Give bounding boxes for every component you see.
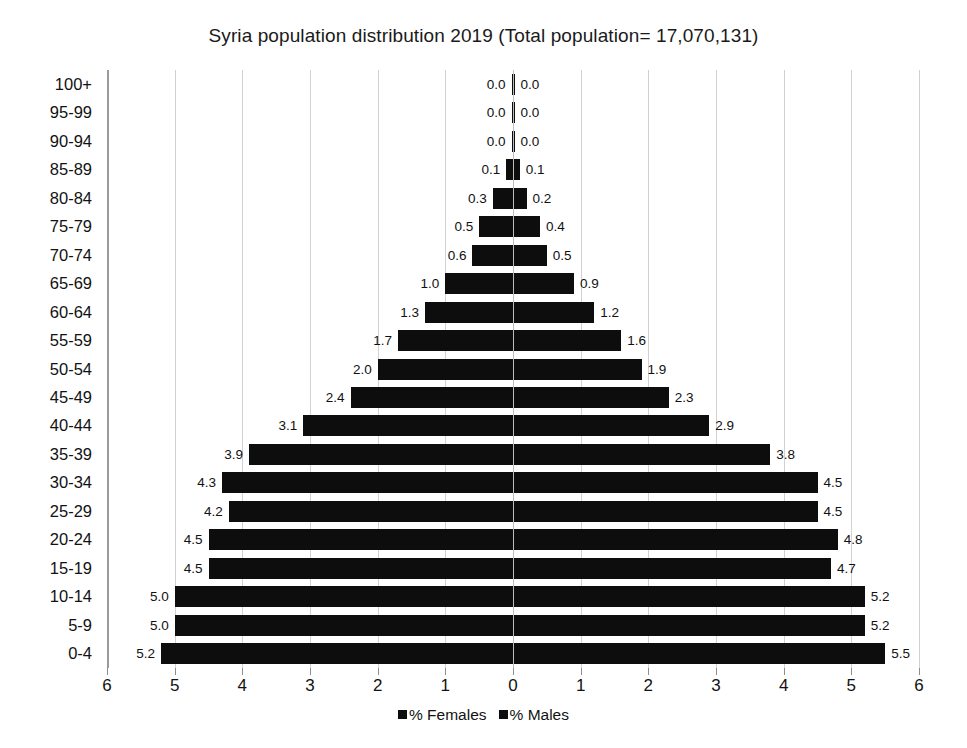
value-label-male: 0.0 [521,132,540,151]
value-label-female: 0.0 [487,103,506,122]
x-axis-tick-label: 3 [696,676,736,696]
bar-female [303,415,513,436]
bar-male [513,558,831,579]
value-label-male: 5.2 [871,587,890,606]
y-axis-tick-label: 45-49 [0,387,92,408]
x-axis-tick-mark [513,668,514,675]
bar-male [513,444,770,465]
bar-male [513,245,547,266]
legend-item[interactable]: % Males [499,706,569,724]
bar-female [506,159,513,180]
y-axis-tick-label: 90-94 [0,131,92,152]
plot-area: 0.00.00.00.00.00.00.10.10.30.20.50.40.60… [107,70,919,668]
value-label-female: 3.9 [224,445,243,464]
gridline-m0 [513,70,514,668]
x-axis-tick-label: 1 [561,676,601,696]
value-label-male: 2.3 [675,388,694,407]
bar-female [351,387,513,408]
value-label-female: 4.3 [197,473,216,492]
bar-male [513,387,669,408]
y-axis-tick-label: 10-14 [0,586,92,607]
gridline-m6 [919,70,920,668]
value-label-male: 5.5 [891,644,910,663]
value-label-female: 4.2 [204,502,223,521]
value-label-female: 0.6 [448,246,467,265]
value-label-female: 5.2 [136,644,155,663]
y-axis-tick-label: 80-84 [0,188,92,209]
x-axis-tick-mark [851,668,852,675]
value-label-female: 4.5 [184,559,203,578]
y-axis-tick-label: 35-39 [0,444,92,465]
x-axis-tick-label: 4 [764,676,804,696]
value-label-female: 2.4 [326,388,345,407]
x-axis-tick-label: 6 [87,676,127,696]
value-label-female: 1.0 [421,274,440,293]
y-axis-tick-label: 40-44 [0,415,92,436]
value-label-female: 0.0 [487,132,506,151]
x-axis-tick-mark [581,668,582,675]
bar-male [513,330,621,351]
bar-female [425,302,513,323]
y-axis-tick-label: 65-69 [0,273,92,294]
bar-female [472,245,513,266]
value-label-male: 3.8 [776,445,795,464]
value-label-male: 0.0 [521,75,540,94]
y-axis-tick-label: 60-64 [0,302,92,323]
y-axis-tick-label: 0-4 [0,643,92,664]
y-axis-tick-label: 30-34 [0,472,92,493]
x-axis-tick-label: 2 [628,676,668,696]
x-axis-tick-mark [175,668,176,675]
value-label-male: 0.1 [526,160,545,179]
value-label-female: 5.0 [150,587,169,606]
bar-male [513,586,865,607]
value-label-female: 1.3 [400,303,419,322]
legend-item[interactable]: % Females [398,706,487,724]
y-axis-tick-label: 75-79 [0,216,92,237]
bar-female [445,273,513,294]
x-axis-tick-label: 5 [831,676,871,696]
value-label-male: 1.2 [600,303,619,322]
bar-male [513,501,818,522]
x-axis-tick-mark [919,668,920,675]
value-label-male: 0.9 [580,274,599,293]
y-axis-tick-label: 55-59 [0,330,92,351]
y-axis-tick-label: 25-29 [0,501,92,522]
bar-male [513,302,594,323]
population-pyramid-chart: Syria population distribution 2019 (Tota… [0,0,967,748]
x-axis-tick-mark [107,668,108,675]
y-axis-tick-label: 100+ [0,74,92,95]
value-label-male: 1.9 [648,360,667,379]
value-label-male: 5.2 [871,616,890,635]
bar-female [209,529,514,550]
x-axis-tick-mark [716,668,717,675]
value-label-female: 4.5 [184,530,203,549]
value-label-male: 4.5 [824,502,843,521]
value-label-male: 4.5 [824,473,843,492]
bar-female [161,643,513,664]
y-axis-tick-label: 15-19 [0,558,92,579]
bar-male [513,415,709,436]
y-axis-tick-label: 70-74 [0,245,92,266]
x-axis-tick-label: 6 [899,676,939,696]
value-label-male: 1.6 [627,331,646,350]
value-label-female: 3.1 [278,416,297,435]
y-axis-tick-label: 95-99 [0,102,92,123]
x-axis-tick-label: 3 [290,676,330,696]
bar-female [479,216,513,237]
value-label-male: 4.8 [844,530,863,549]
bar-female [493,188,513,209]
value-label-female: 2.0 [353,360,372,379]
legend-swatch-icon [398,710,407,719]
bar-female [378,359,513,380]
value-label-male: 0.4 [546,217,565,236]
legend-swatch-icon [499,710,508,719]
bar-female [229,501,513,522]
y-axis-tick-label: 50-54 [0,359,92,380]
value-label-male: 0.2 [533,189,552,208]
value-label-female: 0.0 [487,75,506,94]
bar-male [513,643,885,664]
bar-male [513,159,520,180]
x-axis-tick-mark [242,668,243,675]
value-label-male: 4.7 [837,559,856,578]
bar-male [513,216,540,237]
